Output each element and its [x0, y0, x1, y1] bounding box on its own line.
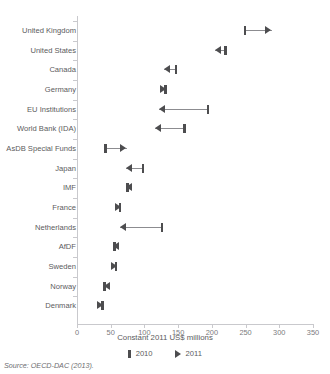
marker-2011: [97, 301, 103, 309]
marker-2011: [164, 65, 170, 73]
cropped-title-strip: [0, 0, 330, 8]
legend-label-2011: 2011: [186, 349, 202, 358]
cropped-title-text: [4, 0, 7, 5]
marker-2011: [160, 85, 166, 93]
legend-item-2011: 2011: [175, 349, 202, 358]
y-axis-tick: [73, 237, 77, 238]
marker-2011: [104, 282, 110, 290]
marker-2010: [244, 26, 247, 35]
y-axis-tick: [73, 159, 77, 160]
data-row: [0, 202, 330, 214]
data-row: [0, 182, 330, 194]
y-axis-tick: [73, 178, 77, 179]
data-row: [0, 45, 330, 57]
marker-2011: [265, 26, 271, 34]
x-axis-line: [77, 324, 313, 325]
y-axis-tick: [73, 80, 77, 81]
data-row: [0, 123, 330, 135]
data-row: [0, 64, 330, 76]
marker-2010: [161, 223, 164, 232]
y-axis-tick: [73, 296, 77, 297]
marker-2011: [126, 164, 132, 172]
change-connector-line: [120, 227, 162, 228]
marker-2010: [175, 65, 178, 74]
bar-marker-icon: [128, 350, 131, 358]
y-axis-tick: [73, 41, 77, 42]
marker-2010: [142, 164, 145, 173]
marker-2011: [115, 203, 121, 211]
source-note: Source: OECD-DAC (2013).: [4, 361, 94, 370]
y-axis-tick: [73, 21, 77, 22]
data-row: [0, 241, 330, 253]
y-axis-tick: [73, 277, 77, 278]
chart-legend: 2010 2011: [0, 349, 330, 358]
data-row: [0, 25, 330, 37]
marker-2010: [207, 105, 210, 114]
chart-plot-area: United KingdomUnited StatesCanadaGermany…: [0, 10, 330, 330]
marker-2011: [126, 183, 132, 191]
data-row: [0, 84, 330, 96]
y-axis-tick: [73, 198, 77, 199]
data-row: [0, 163, 330, 175]
marker-2010: [224, 46, 227, 55]
y-axis-tick: [73, 139, 77, 140]
change-connector-line: [159, 109, 208, 110]
marker-2011: [155, 124, 161, 132]
marker-2011: [215, 46, 221, 54]
y-axis-tick: [73, 218, 77, 219]
data-row: [0, 104, 330, 116]
data-row: [0, 143, 330, 155]
marker-2011: [111, 262, 117, 270]
marker-2010: [104, 144, 107, 153]
y-axis-tick: [73, 119, 77, 120]
marker-2011: [113, 242, 119, 250]
triangle-marker-icon: [175, 350, 181, 358]
marker-2011: [120, 223, 126, 231]
data-row: [0, 281, 330, 293]
data-row: [0, 222, 330, 234]
legend-item-2010: 2010: [128, 349, 153, 358]
marker-2011: [120, 144, 126, 152]
legend-label-2010: 2010: [136, 349, 153, 358]
y-axis-tick: [73, 60, 77, 61]
x-axis-title: Constant 2011 US$ millions: [0, 333, 330, 342]
data-row: [0, 261, 330, 273]
data-row: [0, 300, 330, 312]
marker-2010: [183, 124, 186, 133]
y-axis-tick: [73, 100, 77, 101]
marker-2011: [159, 105, 165, 113]
y-axis-tick: [73, 257, 77, 258]
